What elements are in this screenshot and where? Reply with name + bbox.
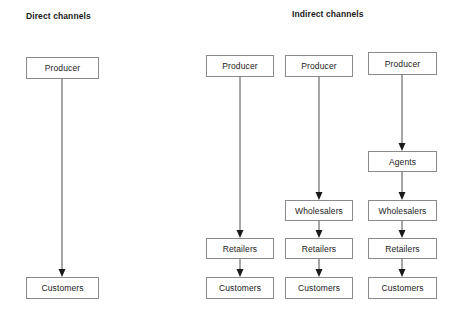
node-c2-retailers[interactable]: Retailers bbox=[285, 238, 353, 259]
node-c2-producer[interactable]: Producer bbox=[285, 55, 353, 77]
arrow-connector bbox=[396, 75, 408, 151]
node-d-customers[interactable]: Customers bbox=[26, 277, 99, 299]
node-c2-wholesalers[interactable]: Wholesalers bbox=[285, 200, 353, 221]
node-c3-producer[interactable]: Producer bbox=[368, 52, 437, 75]
arrow-connector bbox=[313, 221, 325, 238]
node-d-producer[interactable]: Producer bbox=[26, 57, 99, 79]
node-label: Producer bbox=[385, 59, 420, 69]
node-c1-producer[interactable]: Producer bbox=[206, 55, 274, 77]
node-label: Wholesalers bbox=[379, 206, 427, 216]
arrow-connector bbox=[56, 79, 68, 277]
node-c3-retailers[interactable]: Retailers bbox=[368, 238, 437, 259]
node-label: Agents bbox=[389, 157, 416, 167]
node-label: Producer bbox=[222, 61, 257, 71]
node-label: Customers bbox=[42, 283, 84, 293]
node-label: Customers bbox=[382, 283, 424, 293]
node-label: Customers bbox=[298, 283, 340, 293]
node-c2-customers[interactable]: Customers bbox=[285, 277, 353, 299]
node-label: Customers bbox=[219, 283, 261, 293]
arrow-connector bbox=[396, 172, 408, 200]
arrow-connector bbox=[234, 259, 246, 277]
arrow-connector bbox=[396, 221, 408, 238]
node-label: Retailers bbox=[223, 244, 257, 254]
node-c3-customers[interactable]: Customers bbox=[368, 277, 437, 299]
node-c3-agents[interactable]: Agents bbox=[368, 151, 437, 172]
node-c3-wholesalers[interactable]: Wholesalers bbox=[368, 200, 437, 221]
node-label: Producer bbox=[301, 61, 336, 71]
arrow-connector bbox=[313, 259, 325, 277]
node-label: Wholesalers bbox=[295, 206, 343, 216]
heading-direct-channels: Direct channels bbox=[26, 11, 91, 21]
channel-distribution-diagram: Direct channels Indirect channels Produc… bbox=[0, 0, 456, 311]
heading-indirect-channels: Indirect channels bbox=[292, 9, 364, 19]
arrow-connector bbox=[313, 77, 325, 200]
node-label: Retailers bbox=[302, 244, 336, 254]
arrow-connector bbox=[234, 77, 246, 238]
node-c1-customers[interactable]: Customers bbox=[206, 277, 274, 299]
arrow-connector bbox=[396, 259, 408, 277]
node-label: Producer bbox=[45, 63, 80, 73]
node-c1-retailers[interactable]: Retailers bbox=[206, 238, 274, 259]
node-label: Retailers bbox=[385, 244, 419, 254]
